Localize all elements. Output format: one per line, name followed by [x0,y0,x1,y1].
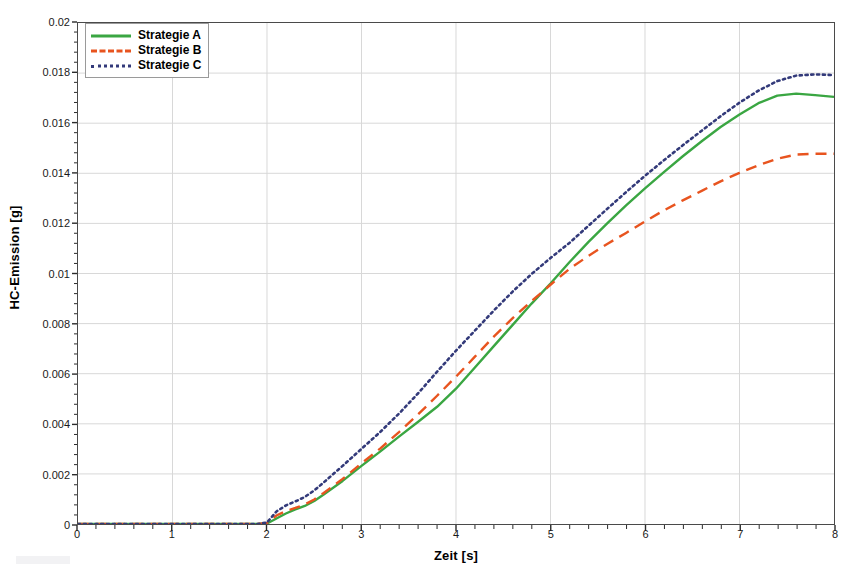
x-tick-label: 5 [548,529,554,540]
series-layer [78,23,834,524]
series-line-2 [78,154,834,524]
plot-area [77,22,835,525]
y-tick-label: 0.016 [42,117,70,128]
hc-emission-chart-figure: 00.0020.0040.0060.0080.010.0120.0140.016… [0,0,862,576]
x-tick-label: 7 [737,529,743,540]
legend-item-label: Strategie A [138,29,201,42]
series-line-1 [78,94,834,524]
y-tick-label: 0.004 [42,419,70,430]
legend-line-sample-icon [91,61,131,71]
legend-line-sample-icon [91,46,131,56]
legend-item-1: Strategie A [91,28,201,43]
legend-item-label: Strategie C [138,59,201,72]
x-tick-label: 6 [642,529,648,540]
legend-line-sample-icon [91,31,131,41]
y-tick-label: 0.018 [42,67,70,78]
y-tick-label: 0.012 [42,218,70,229]
chart-legend: Strategie AStrategie BStrategie C [85,23,209,78]
x-tick-label: 3 [358,529,364,540]
x-tick-label: 4 [453,529,459,540]
y-tick-label: 0.014 [42,167,70,178]
x-axis-title: Zeit [s] [77,548,835,563]
y-tick-label: 0.02 [49,17,70,28]
y-tick-label: 0.002 [42,469,70,480]
series-line-3 [78,74,834,524]
x-tick-label: 8 [832,529,838,540]
y-tick-label: 0.006 [42,369,70,380]
x-tick-label: 0 [74,529,80,540]
y-axis-title: HC-Emission [g] [7,158,22,358]
legend-item-label: Strategie B [138,44,201,57]
y-tick-label: 0.01 [49,268,70,279]
legend-item-2: Strategie B [91,43,201,58]
scan-artifact [16,556,70,564]
y-tick-label: 0.008 [42,318,70,329]
x-tick-label: 2 [263,529,269,540]
legend-item-3: Strategie C [91,58,201,73]
y-tick-label: 0 [64,520,70,531]
x-axis-tick-labels: 012345678 [77,529,835,545]
x-tick-label: 1 [169,529,175,540]
